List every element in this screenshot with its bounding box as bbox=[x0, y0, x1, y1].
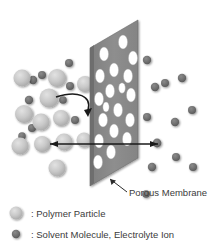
solvent-molecule bbox=[25, 96, 33, 104]
polymer-particle bbox=[48, 69, 66, 87]
polymer-particle bbox=[49, 160, 66, 177]
legend: : Polymer Particle: Solvent Molecule, El… bbox=[10, 207, 175, 241]
membrane-left-edge bbox=[90, 45, 94, 186]
polymer-particle-group-left bbox=[12, 69, 94, 177]
porous-membrane bbox=[90, 20, 138, 186]
membrane-pore bbox=[109, 63, 118, 77]
membrane-pore bbox=[128, 51, 137, 65]
polymer-particle bbox=[14, 70, 31, 87]
polymer-particle bbox=[34, 136, 50, 152]
membrane-pore bbox=[106, 145, 115, 159]
membrane-pore bbox=[103, 102, 109, 112]
solvent-molecule bbox=[178, 74, 186, 82]
legend-filled-circle-icon-solvent-molecule bbox=[12, 230, 20, 238]
membrane-pore bbox=[105, 84, 114, 98]
solvent-molecule bbox=[143, 113, 151, 121]
solvent-molecule bbox=[171, 118, 179, 126]
solvent-molecule bbox=[148, 163, 156, 171]
polymer-particle bbox=[53, 110, 69, 126]
solvent-molecule bbox=[172, 153, 180, 161]
membrane-pore bbox=[119, 83, 126, 93]
solvent-particle-group-right bbox=[142, 56, 197, 198]
polymer-particle bbox=[15, 105, 33, 123]
solvent-molecule bbox=[189, 163, 197, 171]
polymer-particle bbox=[56, 134, 73, 151]
membrane-pore bbox=[113, 103, 122, 117]
solvent-molecule bbox=[151, 83, 159, 91]
legend-label-solvent-molecule: : Solvent Molecule, Electrolyte Ion bbox=[31, 229, 174, 240]
polymer-particle bbox=[12, 138, 29, 155]
solvent-molecule bbox=[188, 106, 196, 114]
legend-filled-circle-icon-polymer-particle bbox=[10, 207, 23, 220]
membrane-pore bbox=[125, 113, 134, 127]
membrane-pore bbox=[123, 69, 132, 83]
diagram-canvas: Porous Membrane : Polymer Particle: Solv… bbox=[0, 0, 219, 246]
porous-membrane-leader-arrowhead bbox=[110, 179, 116, 185]
solvent-molecule bbox=[59, 96, 67, 104]
porous-membrane-label: Porous Membrane bbox=[129, 187, 207, 198]
membrane-pore bbox=[99, 47, 108, 61]
membrane-pore bbox=[95, 69, 104, 83]
membrane-separation-figure: Porous Membrane : Polymer Particle: Solv… bbox=[0, 0, 219, 246]
callout-group: Porous Membrane bbox=[110, 179, 207, 198]
polymer-particle bbox=[40, 89, 59, 108]
solvent-molecule bbox=[66, 82, 74, 90]
polymer-particle bbox=[77, 133, 92, 148]
membrane-pore bbox=[118, 35, 127, 49]
membrane-pore bbox=[126, 88, 135, 102]
solvent-molecule bbox=[65, 59, 73, 67]
membrane-pore bbox=[98, 113, 107, 127]
solvent-permeation-arrow-left-head bbox=[50, 141, 58, 147]
membrane-pore bbox=[94, 92, 103, 106]
membrane-pore bbox=[94, 134, 103, 148]
polymer-particle bbox=[33, 114, 50, 131]
solvent-molecule bbox=[71, 116, 79, 124]
membrane-pore bbox=[93, 155, 102, 169]
legend-label-polymer-particle: : Polymer Particle bbox=[31, 208, 105, 219]
solvent-molecule bbox=[38, 71, 46, 79]
solvent-molecule bbox=[161, 79, 169, 87]
membrane-pore bbox=[109, 124, 118, 138]
solvent-molecule bbox=[143, 56, 151, 64]
